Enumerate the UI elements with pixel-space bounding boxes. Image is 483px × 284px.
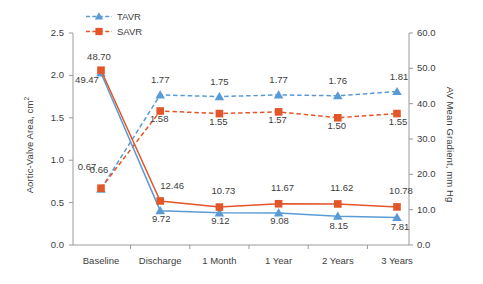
y-axis-right-tick-label: 0.0 <box>417 239 449 250</box>
y-axis-right-tick-label: 30.0 <box>417 133 449 144</box>
y-axis-right-tick-label: 20.0 <box>417 168 449 179</box>
y-axis-right-tick-label: 40.0 <box>417 98 449 109</box>
x-axis-tick-label: 3 Years <box>360 255 434 266</box>
data-label: 9.12 <box>200 215 240 226</box>
data-label: 11.67 <box>263 182 303 193</box>
y-axis-right-tick-label: 50.0 <box>417 62 449 73</box>
data-point-marker <box>334 200 342 208</box>
data-label: 1.55 <box>378 116 418 127</box>
data-label: 10.73 <box>203 185 243 196</box>
data-label: 8.15 <box>319 220 359 231</box>
data-label: 49.47 <box>67 74 107 85</box>
data-label: 9.08 <box>260 215 300 226</box>
data-label: 1.76 <box>318 75 358 86</box>
data-label: 1.81 <box>379 71 419 82</box>
data-point-marker <box>97 184 105 192</box>
data-point-marker <box>216 203 224 211</box>
data-point-marker <box>393 203 401 211</box>
data-label: 1.55 <box>198 116 238 127</box>
y-axis-right-tick-label: 10.0 <box>417 204 449 215</box>
data-label: 1.77 <box>140 74 180 85</box>
y-axis-left-tick-label: 1.0 <box>34 154 64 165</box>
data-point-marker <box>275 200 283 208</box>
y-axis-left-tick-label: 2.0 <box>34 69 64 80</box>
data-label: 12.46 <box>152 180 192 191</box>
data-point-marker <box>156 197 164 205</box>
plot-area <box>0 0 483 284</box>
data-point-marker <box>97 66 105 74</box>
data-label: 0.67 <box>67 161 107 172</box>
data-label: 1.57 <box>258 114 298 125</box>
y-axis-left-tick-label: 2.5 <box>34 27 64 38</box>
y-axis-left-tick-label: 0.5 <box>34 197 64 208</box>
data-label: 11.62 <box>322 182 362 193</box>
data-point-marker <box>155 90 165 98</box>
data-point-marker <box>215 92 225 100</box>
chart-container: Aortic-Valve Area, cm2 AV Mean Gradient,… <box>0 0 483 284</box>
y-axis-right-tick-label: 60.0 <box>417 27 449 38</box>
y-axis-left-tick-label: 1.5 <box>34 112 64 123</box>
data-label: 10.78 <box>381 185 421 196</box>
data-label: 48.70 <box>79 51 119 62</box>
data-label: 7.81 <box>380 221 420 232</box>
data-label: 1.58 <box>139 113 179 124</box>
data-label: 1.75 <box>199 76 239 87</box>
data-label: 9.72 <box>141 213 181 224</box>
y-axis-left-tick-label: 0.0 <box>34 239 64 250</box>
data-label: 1.50 <box>317 120 357 131</box>
data-label: 1.77 <box>259 74 299 85</box>
